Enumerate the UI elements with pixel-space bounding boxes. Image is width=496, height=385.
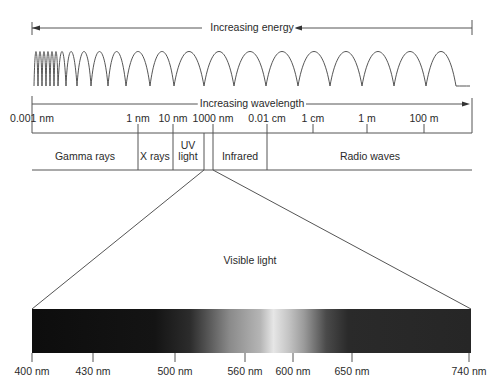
- wavelength-tick-label: 100 m: [409, 113, 438, 124]
- arrow-right-icon: [462, 102, 470, 107]
- visible-spectrum-bar: [32, 309, 471, 353]
- wavelength-tick-label: 10 nm: [158, 113, 187, 124]
- band-radio-waves: Radio waves: [340, 151, 400, 162]
- visible-tick-label: 430 nm: [75, 366, 110, 377]
- visible-tick-label: 740 nm: [451, 366, 486, 377]
- band-uv-light: UV light: [178, 140, 197, 162]
- visible-tick-label: 650 nm: [334, 366, 369, 377]
- wavelength-tick-label: 0.001 nm: [10, 113, 54, 124]
- band-x-rays: X rays: [140, 151, 170, 162]
- wavelength-tick-label: 1 m: [358, 113, 376, 124]
- visible-light-label: Visible light: [224, 255, 277, 266]
- visible-tick-label: 560 nm: [227, 366, 262, 377]
- wavelength-tick-label: 1000 nm: [193, 113, 234, 124]
- wavelength-tick-label: 1 cm: [302, 113, 325, 124]
- visible-tick-label: 400 nm: [14, 366, 49, 377]
- energy-axis-label: Increasing energy: [208, 22, 295, 33]
- visible-tick-label: 600 nm: [275, 366, 310, 377]
- spectrum-diagram: [0, 0, 496, 385]
- wave-icon: [34, 52, 470, 87]
- band-infrared: Infrared: [222, 151, 258, 162]
- wavelength-tick-label: 1 nm: [126, 113, 149, 124]
- band-gamma-rays: Gamma rays: [55, 151, 115, 162]
- wavelength-axis-label: Increasing wavelength: [198, 98, 306, 109]
- arrow-left-icon: [32, 26, 40, 31]
- wavelength-tick-label: 0.01 cm: [248, 113, 285, 124]
- visible-tick-label: 500 nm: [157, 366, 192, 377]
